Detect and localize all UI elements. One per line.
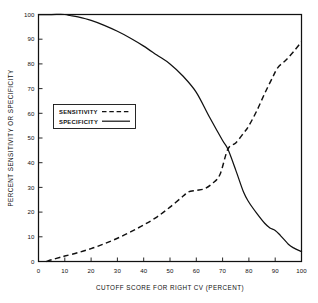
- x-tick-label: 50: [166, 267, 174, 274]
- x-tick-label: 40: [140, 267, 148, 274]
- chart-background: [0, 0, 318, 303]
- roc-style-line-chart: 0102030405060708090100 01020304050607080…: [0, 0, 318, 303]
- x-tick-label: 60: [193, 267, 201, 274]
- x-tick-label: 20: [88, 267, 96, 274]
- y-tick-label: 10: [27, 233, 35, 240]
- y-axis-title: PERCENT SENSITIVITY OR SPECIFICITY: [7, 69, 14, 207]
- x-axis-title: CUTOFF SCORE FOR RIGHT CV (PERCENT): [96, 284, 244, 292]
- y-tick-label: 0: [31, 258, 35, 265]
- y-tick-label: 60: [27, 110, 35, 117]
- x-tick-label: 0: [37, 267, 41, 274]
- x-tick-label: 90: [272, 267, 280, 274]
- y-tick-label: 50: [27, 134, 35, 141]
- legend-label-sensitivity: SENSITIVITY: [59, 109, 98, 115]
- chart-container: 0102030405060708090100 01020304050607080…: [0, 0, 318, 303]
- x-tick-label: 70: [219, 267, 227, 274]
- y-tick-label: 20: [27, 208, 35, 215]
- y-tick-label: 40: [27, 159, 35, 166]
- chart-legend: SENSITIVITY SPECIFICITY: [54, 105, 136, 129]
- y-tick-label: 90: [27, 35, 35, 42]
- x-tick-label: 30: [114, 267, 122, 274]
- y-tick-label: 70: [27, 85, 35, 92]
- y-tick-label: 30: [27, 184, 35, 191]
- legend-label-specificity: SPECIFICITY: [59, 119, 98, 125]
- x-tick-label: 100: [296, 267, 307, 274]
- x-tick-label: 10: [61, 267, 69, 274]
- y-tick-label: 80: [27, 60, 35, 67]
- y-tick-label: 100: [24, 11, 35, 18]
- x-tick-label: 80: [245, 267, 253, 274]
